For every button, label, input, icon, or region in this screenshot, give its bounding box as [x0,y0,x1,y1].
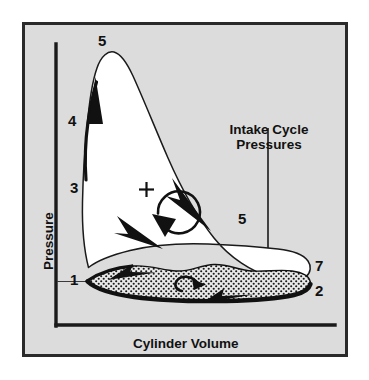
point-label-5-right: 5 [238,211,246,228]
callout-line-1: Intake Cycle [201,122,337,137]
point-label-2: 2 [315,283,323,300]
point-label-5-top: 5 [98,33,106,50]
point-label-7: 7 [315,258,323,275]
point-label-4: 4 [68,113,76,130]
pv-diagram-canvas [0,0,369,380]
y-axis-label: Pressure [41,212,56,270]
power-loop-shape [82,52,310,281]
point-label-1: 1 [70,272,78,289]
point-label-3: 3 [70,180,78,197]
pv-diagram-figure: 5 4 3 5 7 1 2 Intake Cycle Pressures Pre… [0,0,369,380]
callout-line-2: Pressures [201,137,337,152]
intake-cycle-pressures-callout: Intake Cycle Pressures [201,122,337,152]
x-axis-label: Cylinder Volume [133,336,239,351]
